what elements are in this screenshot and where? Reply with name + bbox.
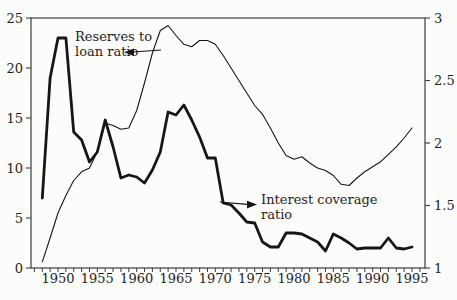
annotation-arrowhead-icon	[247, 201, 257, 209]
x-axis-tick-label: 1990	[356, 271, 389, 286]
left-axis-tick-label: 10	[6, 161, 23, 176]
x-axis-tick-label: 1995	[395, 271, 428, 286]
right-axis-tick-label: 2	[434, 136, 442, 151]
series-line-reserves-to-loan-ratio	[42, 26, 412, 262]
left-axis-tick-label: 15	[6, 111, 23, 126]
line-chart-figure: 051015202511.522.53195019551960196519701…	[0, 0, 457, 300]
left-axis-tick-label: 20	[6, 61, 23, 76]
chart-canvas: 051015202511.522.53195019551960196519701…	[0, 0, 457, 300]
x-axis-tick-label: 1960	[120, 271, 153, 286]
left-axis-tick-label: 0	[15, 261, 23, 276]
x-axis-tick-label: 1965	[159, 271, 192, 286]
right-axis-tick-label: 1	[434, 261, 442, 276]
annotation-label-interest-coverage-ratio: Interest coverage	[261, 192, 378, 207]
right-axis-tick-label: 3	[434, 11, 442, 26]
left-axis-tick-label: 25	[6, 11, 23, 26]
x-axis-tick-label: 1970	[199, 271, 232, 286]
x-axis-tick-label: 1950	[41, 271, 74, 286]
x-axis-tick-label: 1980	[277, 271, 310, 286]
x-axis-tick-label: 1975	[238, 271, 271, 286]
annotation-label-reserves-to-loan-ratio: Reserves to	[75, 29, 152, 44]
series-line-interest-coverage-ratio	[42, 38, 412, 251]
x-axis-tick-label: 1985	[317, 271, 350, 286]
left-axis-tick-label: 5	[15, 211, 23, 226]
right-axis-tick-label: 1.5	[434, 198, 455, 213]
right-axis-tick-label: 2.5	[434, 73, 455, 88]
x-axis-tick-label: 1955	[81, 271, 114, 286]
annotation-label-interest-coverage-ratio: ratio	[261, 207, 292, 222]
